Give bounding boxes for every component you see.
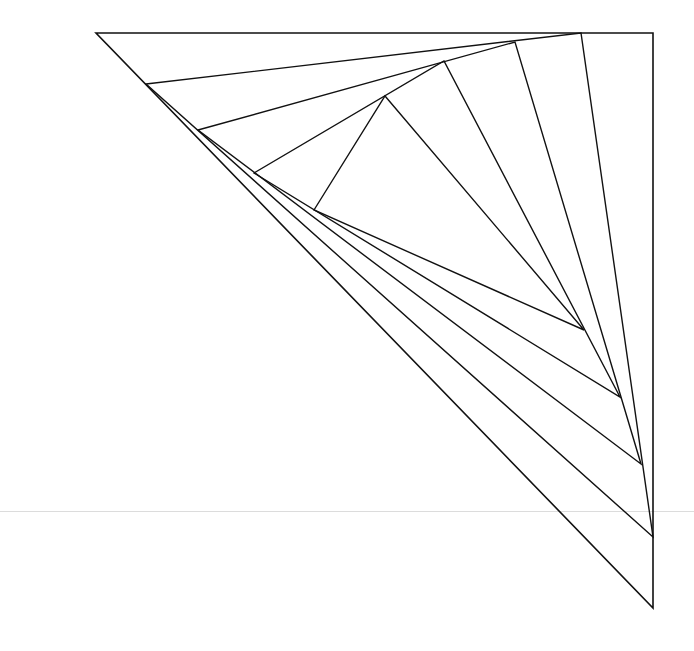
triangle-level-4 <box>314 96 584 330</box>
nested-triangles-diagram <box>0 0 694 651</box>
triangle-outer <box>96 33 653 608</box>
triangle-level-1 <box>146 33 653 537</box>
triangle-level-2 <box>198 42 641 464</box>
